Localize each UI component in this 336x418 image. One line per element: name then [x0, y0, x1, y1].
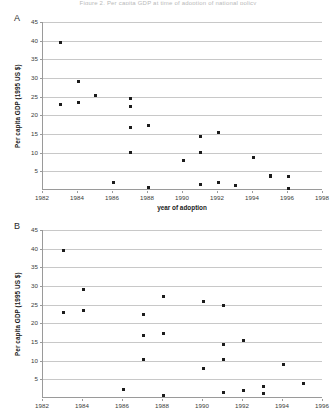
gridline — [43, 305, 322, 306]
scatter-point — [242, 339, 245, 342]
gridline — [43, 22, 322, 23]
scatter-point — [62, 249, 65, 252]
x-axis-tick-label: 1996 — [275, 195, 299, 201]
y-axis-tick-label: 40 — [18, 246, 38, 252]
x-axis-tick-mark — [322, 191, 323, 193]
y-axis-tick-label: 25 — [18, 302, 38, 308]
x-axis-tick-mark — [42, 399, 43, 401]
gridline — [43, 342, 322, 343]
y-axis-tick-label: 35 — [18, 56, 38, 62]
y-axis-tick-mark — [40, 171, 42, 172]
x-axis-tick-label: 1994 — [240, 195, 264, 201]
y-axis-tick-label: 5 — [18, 376, 38, 382]
scatter-point — [122, 388, 125, 391]
x-axis-tick-mark — [217, 191, 218, 193]
scatter-point — [162, 295, 165, 298]
scatter-point — [147, 186, 150, 189]
gridline — [43, 249, 322, 250]
scatter-point — [129, 126, 132, 129]
scatter-point — [129, 105, 132, 108]
y-axis-tick-mark — [40, 323, 42, 324]
scatter-point — [202, 300, 205, 303]
scatter-point — [82, 288, 85, 291]
panel-a-x-axis-title: year of adoption — [42, 204, 322, 211]
y-axis-tick-mark — [40, 22, 42, 23]
chart-panel-a: A Per capita GDP (1995 US $) year of ado… — [0, 10, 336, 210]
scatter-point — [199, 135, 202, 138]
y-axis-tick-mark — [40, 134, 42, 135]
y-axis-tick-mark — [40, 97, 42, 98]
x-axis-tick-label: 1990 — [190, 403, 214, 409]
y-axis-tick-mark — [40, 286, 42, 287]
scatter-point — [234, 184, 237, 187]
scatter-point — [162, 394, 165, 397]
y-axis-tick-mark — [40, 249, 42, 250]
x-axis-tick-label: 1986 — [110, 403, 134, 409]
cut-off-header: Figure 2. Per capita GDP at time of adop… — [0, 0, 336, 5]
x-axis-tick-mark — [182, 191, 183, 193]
y-axis-tick-label: 25 — [18, 94, 38, 100]
y-axis-tick-mark — [40, 379, 42, 380]
scatter-point — [222, 304, 225, 307]
y-axis-tick-label: 10 — [18, 358, 38, 364]
gridline — [43, 323, 322, 324]
x-axis-tick-label: 1982 — [30, 195, 54, 201]
x-axis-tick-mark — [322, 399, 323, 401]
x-axis-tick-label: 1988 — [150, 403, 174, 409]
y-axis-tick-mark — [40, 305, 42, 306]
gridline — [43, 78, 322, 79]
scatter-point — [142, 313, 145, 316]
y-axis-tick-label: 5 — [18, 168, 38, 174]
scatter-point — [217, 131, 220, 134]
x-axis-tick-mark — [287, 191, 288, 193]
gridline — [43, 230, 322, 231]
y-axis-tick-label: 15 — [18, 339, 38, 345]
y-axis-tick-label: 45 — [18, 227, 38, 233]
gridline — [43, 115, 322, 116]
y-axis-tick-mark — [40, 361, 42, 362]
scatter-point — [262, 392, 265, 395]
scatter-point — [282, 363, 285, 366]
scatter-point — [269, 175, 272, 178]
x-axis-tick-label: 1992 — [230, 403, 254, 409]
x-axis-tick-label: 1998 — [310, 195, 334, 201]
y-axis-tick-mark — [40, 153, 42, 154]
x-axis-tick-label: 1990 — [170, 195, 194, 201]
x-axis-tick-mark — [162, 399, 163, 401]
scatter-point — [199, 151, 202, 154]
x-axis-tick-mark — [242, 399, 243, 401]
x-axis-tick-label: 1986 — [100, 195, 124, 201]
x-axis-tick-mark — [252, 191, 253, 193]
y-axis-tick-mark — [40, 59, 42, 60]
figure-page: Figure 2. Per capita GDP at time of adop… — [0, 0, 336, 418]
y-axis-tick-label: 20 — [18, 112, 38, 118]
panel-b-plot-area — [42, 230, 322, 398]
gridline — [43, 267, 322, 268]
scatter-point — [59, 41, 62, 44]
scatter-point — [252, 156, 255, 159]
scatter-point — [222, 343, 225, 346]
scatter-point — [142, 334, 145, 337]
scatter-point — [112, 181, 115, 184]
scatter-point — [242, 389, 245, 392]
scatter-point — [202, 367, 205, 370]
scatter-point — [77, 80, 80, 83]
gridline — [43, 153, 322, 154]
x-axis-tick-mark — [282, 399, 283, 401]
y-axis-tick-label: 15 — [18, 131, 38, 137]
panel-a-plot-area — [42, 22, 322, 190]
scatter-point — [59, 103, 62, 106]
gridline — [43, 134, 322, 135]
scatter-point — [162, 332, 165, 335]
scatter-point — [302, 382, 305, 385]
gridline — [43, 286, 322, 287]
x-axis-tick-mark — [77, 191, 78, 193]
y-axis-tick-mark — [40, 41, 42, 42]
scatter-point — [62, 311, 65, 314]
scatter-point — [182, 159, 185, 162]
scatter-point — [129, 97, 132, 100]
x-axis-tick-mark — [147, 191, 148, 193]
scatter-point — [199, 183, 202, 186]
y-axis-tick-label: 20 — [18, 320, 38, 326]
x-axis-tick-label: 1984 — [65, 195, 89, 201]
